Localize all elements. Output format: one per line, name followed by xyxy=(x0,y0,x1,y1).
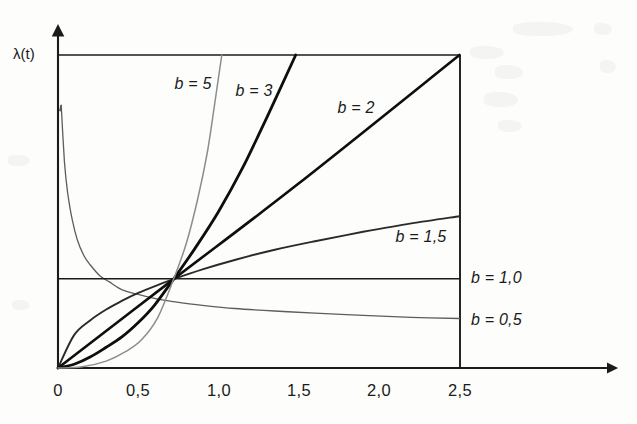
chart-canvas xyxy=(0,0,637,424)
curve-label-b10: b = 1,0 xyxy=(471,269,522,287)
chart-figure: λ(t) 0 0,5 1,0 1,5 2,0 2,5 b = 5 b = 3 b… xyxy=(0,0,637,424)
curve-b-2 xyxy=(58,55,460,368)
x-tick-label-1: 0,5 xyxy=(126,381,150,400)
axis-lines xyxy=(58,34,609,368)
curve-label-b3: b = 3 xyxy=(235,82,272,100)
y-axis-title: λ(t) xyxy=(13,45,35,62)
x-tick-label-3: 1,5 xyxy=(287,381,311,400)
curve-b-3 xyxy=(58,55,296,368)
series-layer xyxy=(58,55,460,368)
curve-label-b5: b = 5 xyxy=(174,75,211,93)
x-tick-label-4: 2,0 xyxy=(367,381,391,400)
curve-label-b15: b = 1,5 xyxy=(396,228,447,246)
x-tick-label-0: 0 xyxy=(53,381,62,400)
curve-b-0-5-tail xyxy=(60,105,61,111)
x-tick-label-5: 2,5 xyxy=(448,381,472,400)
curve-label-b05: b = 0,5 xyxy=(471,311,522,329)
y-axis-title-text: λ(t) xyxy=(13,45,35,62)
x-tick-label-2: 1,0 xyxy=(207,381,231,400)
curve-label-b2: b = 2 xyxy=(337,99,374,117)
